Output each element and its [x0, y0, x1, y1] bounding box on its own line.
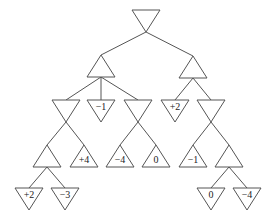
game-tree-diagram: −1+2+4−40−1+2−30−4: [0, 0, 276, 224]
tree-edge: [101, 77, 138, 100]
down-triangle-icon: [52, 100, 80, 122]
min-node-leaf: −4: [233, 188, 261, 210]
tree-edge: [66, 122, 84, 145]
node-value-label: 0: [209, 189, 214, 200]
tree-nodes: −1+2+4−40−1+2−30−4: [15, 10, 261, 210]
tree-edge: [193, 78, 211, 100]
tree-edge: [29, 167, 47, 188]
min-node: [124, 100, 152, 122]
min-node-leaf: −3: [51, 188, 79, 210]
node-value-label: −4: [115, 154, 126, 165]
min-node: [132, 10, 160, 32]
node-value-label: +4: [79, 154, 90, 165]
max-node-leaf: −1: [179, 145, 207, 167]
max-node: [87, 55, 115, 77]
min-node-leaf: +2: [15, 188, 43, 210]
tree-edge: [175, 78, 193, 100]
min-node-leaf: −1: [87, 100, 115, 122]
min-node-leaf: 0: [197, 188, 225, 210]
tree-edge: [146, 32, 193, 56]
tree-edge: [47, 167, 65, 188]
tree-edge: [193, 122, 211, 145]
node-value-label: +2: [170, 101, 181, 112]
max-node: [179, 56, 207, 78]
tree-edge: [120, 122, 138, 145]
node-value-label: −4: [242, 189, 253, 200]
max-node-leaf: 0: [142, 145, 170, 167]
up-triangle-icon: [179, 56, 207, 78]
max-node: [33, 145, 61, 167]
min-node: [197, 100, 225, 122]
max-node-leaf: +4: [70, 145, 98, 167]
up-triangle-icon: [33, 145, 61, 167]
node-value-label: 0: [154, 154, 159, 165]
max-node: [215, 145, 243, 167]
node-value-label: −3: [60, 189, 71, 200]
down-triangle-icon: [197, 100, 225, 122]
min-node-leaf: +2: [161, 100, 189, 122]
max-node-leaf: −4: [106, 145, 134, 167]
tree-edge: [229, 167, 247, 188]
tree-edge: [211, 122, 229, 145]
down-triangle-icon: [132, 10, 160, 32]
min-node: [52, 100, 80, 122]
tree-edge: [211, 167, 229, 188]
node-value-label: +2: [24, 189, 35, 200]
tree-edge: [66, 77, 101, 100]
up-triangle-icon: [87, 55, 115, 77]
down-triangle-icon: [124, 100, 152, 122]
up-triangle-icon: [215, 145, 243, 167]
tree-edge: [138, 122, 156, 145]
node-value-label: −1: [96, 101, 107, 112]
node-value-label: −1: [188, 154, 199, 165]
tree-edge: [47, 122, 66, 145]
tree-edge: [101, 32, 146, 55]
